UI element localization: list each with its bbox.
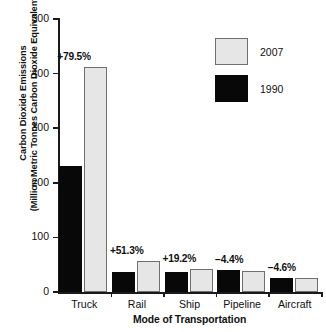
bar-pipeline-2007 (242, 271, 265, 292)
bar-ship-2007 (190, 269, 213, 292)
plot-area (58, 19, 321, 292)
bar-rail-1990 (112, 272, 135, 292)
x-tick (111, 292, 113, 297)
y-tick-label: 300 (31, 121, 49, 133)
y-tick-label: 400 (31, 67, 49, 79)
category-label-ship: Ship (163, 298, 216, 310)
legend-swatch-1990 (215, 75, 248, 102)
pct-label-ship: +19.2% (163, 253, 197, 264)
x-tick (268, 292, 270, 297)
pct-label-truck: +79.5% (57, 51, 91, 62)
x-axis-line (58, 292, 321, 294)
legend-label-2007: 2007 (260, 46, 283, 58)
bar-aircraft-2007 (295, 278, 318, 292)
pct-label-aircraft: −4.6% (268, 262, 296, 273)
pct-label-pipeline: −4.4% (215, 254, 243, 265)
bar-chart-figure: Carbon Dioxide Emissions (Million Metric… (0, 0, 326, 332)
y-tick-label: 0 (43, 285, 49, 297)
category-label-aircraft: Aircraft (268, 298, 321, 310)
bar-ship-1990 (165, 272, 188, 292)
y-axis-title: Carbon Dioxide Emissions (Million Metric… (12, 0, 46, 228)
y-tick-label: 500 (31, 12, 49, 24)
category-label-rail: Rail (111, 298, 164, 310)
legend-label-1990: 1990 (260, 83, 283, 95)
x-tick (321, 292, 323, 297)
bar-pipeline-1990 (217, 270, 240, 292)
y-tick-label: 100 (31, 230, 49, 242)
bar-rail-2007 (137, 261, 160, 292)
bar-aircraft-1990 (270, 278, 293, 292)
pct-label-rail: +51.3% (110, 245, 144, 256)
bar-truck-1990 (59, 166, 82, 292)
legend-swatch-2007 (215, 38, 248, 65)
y-axis-title-line1: Carbon Dioxide Emissions (18, 45, 29, 160)
x-axis-title: Mode of Transportation (58, 314, 321, 325)
x-tick (163, 292, 165, 297)
x-tick (216, 292, 218, 297)
category-label-truck: Truck (58, 298, 111, 310)
bar-truck-2007 (84, 67, 107, 292)
y-tick-label: 200 (31, 176, 49, 188)
category-label-pipeline: Pipeline (216, 298, 269, 310)
